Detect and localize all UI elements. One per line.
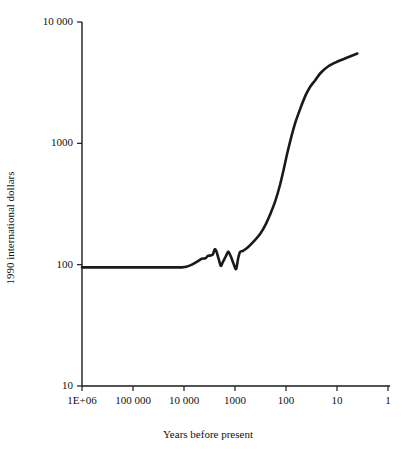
y-axis-tick-label: 100	[0, 259, 73, 270]
y-axis-tick-label: 10 000	[0, 16, 73, 27]
chart-figure: 1990 international dollars Years before …	[0, 0, 416, 455]
y-ticks-group	[77, 22, 82, 386]
y-axis-tick-label: 10	[0, 380, 73, 391]
axes-group	[82, 22, 390, 386]
x-axis-tick-label: 1	[348, 395, 416, 406]
y-axis-tick-label: 1000	[0, 137, 73, 148]
data-series-group	[82, 54, 357, 270]
x-ticks-group	[82, 386, 388, 391]
x-axis-title: Years before present	[0, 428, 416, 440]
data-line-gdp-per-capita	[82, 54, 357, 270]
